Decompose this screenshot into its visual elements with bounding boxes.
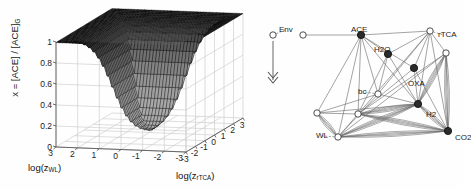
y-tick-1: 1: [221, 132, 226, 141]
network-node-label-rtca: rTCA: [438, 31, 457, 39]
z-tick-0.8: 0.8: [40, 59, 52, 68]
y-axis-label: log(zrTCA): [176, 171, 214, 182]
z-axis-label-text: x = [ACE] / [ACE]: [9, 24, 20, 97]
x-tick-0: 0: [113, 152, 118, 161]
x-tick-2: 2: [70, 150, 75, 159]
network-node-label-wl: WL: [316, 132, 328, 140]
x-tick-3: 3: [48, 149, 53, 158]
y-tick-0: 0: [211, 138, 216, 147]
network-node-label-h2: H2: [426, 111, 436, 119]
z-axis-label: x = [ACE] / [ACE]G: [9, 15, 20, 101]
z-axis-label-subscript: G: [14, 19, 21, 24]
y-axis-label-suffix: ): [211, 170, 214, 181]
surface-mesh: [56, 9, 243, 131]
network-diagram-panel: EnvACErTCAH2OOXAbcH2CO2WL: [250, 0, 463, 190]
surface-plot-panel: x = [ACE] / [ACE]G log(zWL) log(zrTCA) 0…: [0, 0, 250, 190]
x-tick-1: 1: [92, 151, 97, 160]
env-downward-arrow: [268, 41, 278, 83]
z-tick-0.6: 0.6: [40, 80, 52, 89]
y-tick-2: 2: [230, 126, 235, 135]
y-tick--1: -1: [200, 143, 208, 152]
x-axis-label: log(zWL): [28, 163, 61, 174]
network-node-label-bc: bc: [358, 88, 366, 96]
z-tick-0.4: 0.4: [40, 101, 52, 110]
z-tick-0.2: 0.2: [40, 122, 52, 131]
network-node-label-h2o: H2O: [374, 46, 390, 54]
x-tick--2: -2: [154, 153, 162, 162]
x-axis-label-suffix: ): [58, 162, 61, 173]
network-node-label-ace: ACE: [351, 26, 367, 34]
x-tick--1: -1: [132, 152, 140, 161]
network-node-label-oxa: OXA: [408, 80, 425, 88]
y-axis-label-subscript: rTCA: [197, 174, 212, 181]
y-tick--2: -2: [191, 149, 199, 158]
y-tick-3: 3: [240, 121, 245, 130]
x-axis-label-prefix: log(z: [28, 162, 49, 173]
z-tick-1: 1: [47, 38, 52, 47]
network-node-label-env: Env: [279, 26, 293, 34]
x-axis-label-subscript: WL: [49, 166, 58, 173]
y-axis-label-prefix: log(z: [176, 170, 197, 181]
network-node-label-co2: CO2: [455, 134, 471, 142]
y-tick--3: -3: [181, 155, 189, 164]
